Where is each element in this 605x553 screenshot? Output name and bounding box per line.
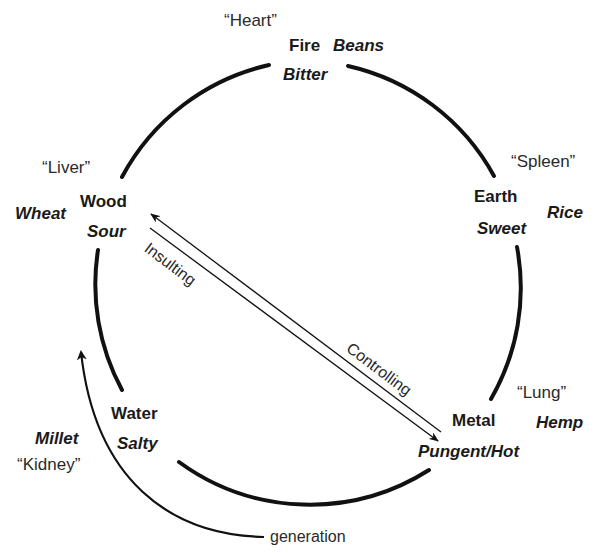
insulting-arrow bbox=[151, 214, 441, 432]
grain-millet: Millet bbox=[35, 430, 78, 447]
taste-pungent-hot: Pungent/Hot bbox=[418, 443, 519, 460]
generation-arrow bbox=[81, 352, 264, 537]
element-metal: Metal bbox=[452, 412, 495, 429]
organ-kidney: “Kidney” bbox=[17, 456, 80, 473]
controlling-arrow bbox=[150, 228, 438, 441]
grain-rice: Rice bbox=[547, 204, 583, 221]
arc-metal-water bbox=[179, 462, 429, 505]
organ-heart: “Heart” bbox=[224, 12, 277, 29]
organ-lung: “Lung” bbox=[517, 384, 566, 401]
label-generation: generation bbox=[270, 529, 346, 545]
arc-wood-fire bbox=[122, 65, 269, 177]
grain-wheat: Wheat bbox=[15, 205, 66, 222]
taste-salty: Salty bbox=[117, 435, 158, 452]
arc-water-wood bbox=[95, 250, 122, 390]
taste-sweet: Sweet bbox=[477, 220, 526, 237]
taste-bitter: Bitter bbox=[283, 66, 327, 83]
element-earth: Earth bbox=[474, 188, 517, 205]
element-fire: Fire bbox=[289, 37, 320, 54]
organ-spleen: “Spleen” bbox=[511, 153, 575, 170]
element-water: Water bbox=[111, 405, 158, 422]
arc-fire-earth bbox=[348, 66, 494, 176]
organ-liver: “Liver” bbox=[42, 159, 90, 176]
element-wood: Wood bbox=[80, 193, 127, 210]
cycle-circle bbox=[95, 65, 520, 505]
taste-sour: Sour bbox=[87, 223, 126, 240]
grain-hemp: Hemp bbox=[536, 414, 583, 431]
grain-beans: Beans bbox=[333, 37, 384, 54]
arc-earth-metal bbox=[491, 247, 521, 399]
